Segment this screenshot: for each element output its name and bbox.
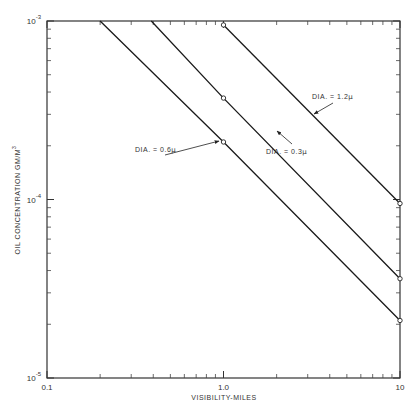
svg-text:OIL CONCENTRATION GM/M3: OIL CONCENTRATION GM/M3 bbox=[11, 146, 21, 255]
data-series bbox=[100, 21, 402, 323]
y-tick-label: 10-5 bbox=[27, 371, 42, 383]
series-label-2: DIA. = 1.2μ bbox=[312, 93, 353, 101]
y-tick-label: 10-4 bbox=[27, 193, 42, 205]
data-point-marker bbox=[398, 201, 402, 205]
data-point-marker bbox=[221, 96, 225, 100]
y-tick-label: 10-3 bbox=[27, 14, 42, 26]
series-annotations: DIA. = 0.6μDIA. = 0.3μDIA. = 1.2μ bbox=[135, 93, 353, 156]
data-point-marker bbox=[398, 277, 402, 281]
plot-border bbox=[47, 21, 400, 378]
series-label-0: DIA. = 0.6μ bbox=[135, 146, 176, 154]
annotation-arrow bbox=[277, 131, 292, 144]
series-line-2 bbox=[224, 25, 401, 204]
x-tick-label: 10 bbox=[396, 383, 405, 392]
data-point-marker bbox=[221, 140, 225, 144]
x-tick-label: 1.0 bbox=[218, 383, 230, 392]
y-axis-label: OIL CONCENTRATION GM/M3 bbox=[11, 146, 21, 255]
x-axis-label: VISIBILITY-MILES bbox=[191, 394, 256, 401]
data-point-marker bbox=[398, 318, 402, 322]
axis-ticks: 0.11.01010-510-410-3 bbox=[27, 14, 405, 392]
annotation-arrow bbox=[314, 103, 333, 114]
log-log-chart: 0.11.01010-510-410-3 DIA. = 0.6μDIA. = 0… bbox=[0, 0, 413, 408]
series-line-0 bbox=[100, 21, 400, 321]
x-tick-label: 0.1 bbox=[41, 383, 53, 392]
series-label-1: DIA. = 0.3μ bbox=[266, 148, 307, 156]
data-point-marker bbox=[221, 23, 225, 27]
plot-frame bbox=[47, 21, 400, 378]
